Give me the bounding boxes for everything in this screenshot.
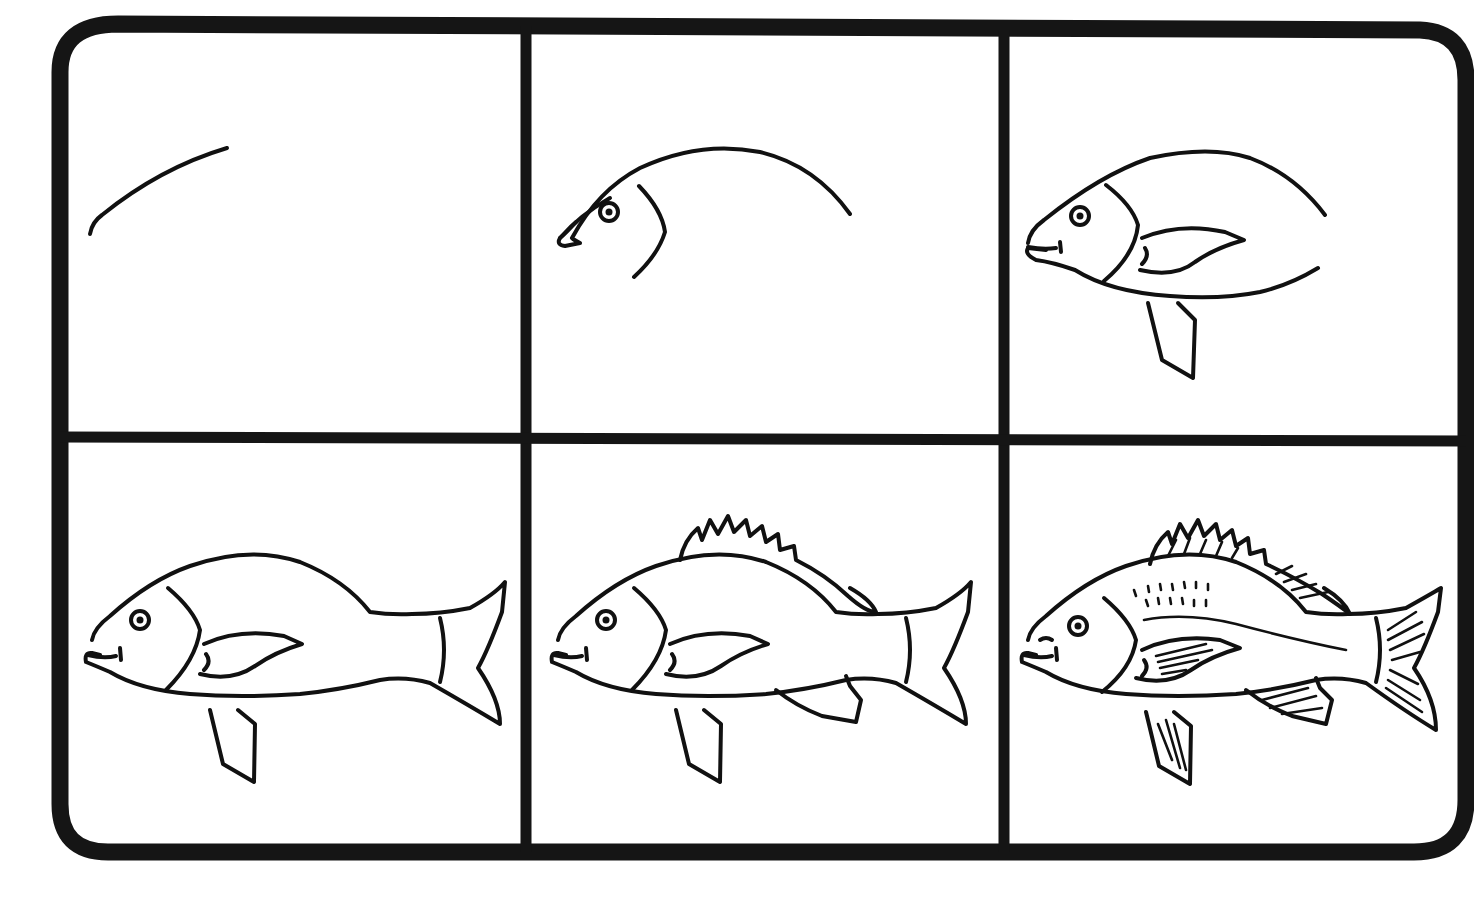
step-5-panel: Add the spiky dorsal fin and the anal fi… [552, 516, 971, 782]
gill-line [1102, 598, 1136, 692]
eye-pupil [603, 617, 610, 624]
pelvic-fin [676, 710, 721, 782]
lateral-line [1144, 617, 1346, 650]
anal-fin [776, 676, 861, 722]
eye-pupil [137, 617, 144, 624]
eye-pupil [1077, 213, 1084, 220]
back-curve [90, 148, 227, 234]
fish-body [1027, 152, 1325, 298]
divider-horizontal [60, 437, 1466, 441]
step-1-panel: Draw a curved line for the back of the h… [90, 148, 227, 234]
eye-pupil [606, 209, 613, 216]
tail-divider [1376, 618, 1380, 682]
pectoral-fin [200, 633, 302, 676]
dorsal-fin [680, 516, 876, 612]
gill-line [166, 588, 200, 690]
tail-divider [440, 618, 444, 682]
step-6-panel: Add details: scales, lateral line and fi… [1022, 520, 1441, 784]
pectoral-fin [1140, 228, 1244, 273]
tail-divider [906, 618, 910, 682]
step-4-panel: Add the tail and tail divider line [86, 554, 505, 782]
pelvic-fin [210, 710, 255, 782]
gill-line [634, 186, 665, 277]
head-and-back [559, 148, 850, 246]
scale-marks [1134, 582, 1208, 606]
pectoral-fin-rays [1156, 644, 1212, 674]
gill-line [1104, 185, 1138, 281]
pelvic-fin-rays [1158, 720, 1186, 770]
eye-pupil [1075, 623, 1082, 630]
gill-line [632, 588, 666, 690]
pectoral-fin [1136, 638, 1240, 680]
anal-fin-rays [1262, 688, 1322, 714]
step-2-panel: Extend the back curve and add the snout,… [559, 148, 850, 277]
pectoral-fin [666, 633, 768, 676]
step-3-panel: Close the belly, add the mouth, pectoral… [1027, 152, 1325, 379]
pelvic-fin [1148, 303, 1195, 378]
drawing-steps-board: Draw a curved line for the back of the h… [0, 0, 1474, 916]
